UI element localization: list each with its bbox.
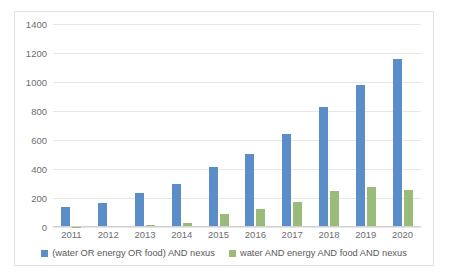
bar bbox=[330, 191, 339, 227]
bar-groups bbox=[53, 24, 421, 227]
x-axis-tick-label: 2015 bbox=[200, 229, 237, 240]
x-axis-tick-labels: 2011201220132014201520162017201820192020 bbox=[53, 229, 421, 240]
x-axis-tick-label: 2018 bbox=[311, 229, 348, 240]
bar-group bbox=[237, 24, 274, 227]
y-axis-tick-label: 400 bbox=[31, 164, 47, 175]
bar-group bbox=[53, 24, 90, 227]
legend-item[interactable]: water AND energy AND food AND nexus bbox=[229, 248, 407, 258]
bar-group bbox=[274, 24, 311, 227]
x-axis-tick-label: 2012 bbox=[90, 229, 127, 240]
x-axis-tick-label: 2016 bbox=[237, 229, 274, 240]
legend-item[interactable]: (water OR energy OR food) AND nexus bbox=[41, 248, 215, 258]
y-axis-tick-label: 1200 bbox=[26, 48, 47, 59]
x-axis-tick-label: 2011 bbox=[53, 229, 90, 240]
y-axis-tick-label: 1000 bbox=[26, 77, 47, 88]
bar-group bbox=[90, 24, 127, 227]
bar bbox=[61, 207, 70, 227]
bar bbox=[393, 59, 402, 227]
bar-group bbox=[347, 24, 384, 227]
bar-group bbox=[163, 24, 200, 227]
chart-container: 0200400600800100012001400 20112012201320… bbox=[14, 11, 434, 266]
bar bbox=[319, 107, 328, 227]
bar bbox=[256, 209, 265, 227]
bar bbox=[367, 187, 376, 227]
bar-group bbox=[311, 24, 348, 227]
bar bbox=[245, 154, 254, 227]
legend-label: water AND energy AND food AND nexus bbox=[240, 248, 407, 258]
y-axis-tick-label: 600 bbox=[31, 135, 47, 146]
y-axis-tick-label: 0 bbox=[42, 222, 47, 233]
chart-legend: (water OR energy OR food) AND nexuswater… bbox=[15, 248, 433, 258]
bar-group bbox=[200, 24, 237, 227]
legend-swatch-icon bbox=[229, 250, 236, 257]
bar bbox=[282, 134, 291, 227]
x-axis-tick-label: 2014 bbox=[163, 229, 200, 240]
x-axis-tick-label: 2013 bbox=[127, 229, 164, 240]
bar bbox=[356, 85, 365, 227]
y-axis-tick-label: 200 bbox=[31, 193, 47, 204]
legend-label: (water OR energy OR food) AND nexus bbox=[52, 248, 215, 258]
bar bbox=[172, 184, 181, 227]
bar bbox=[404, 190, 413, 227]
gridline bbox=[53, 227, 421, 228]
bar bbox=[98, 203, 107, 227]
bar bbox=[293, 202, 302, 227]
bar-group bbox=[127, 24, 164, 227]
bar-group bbox=[384, 24, 421, 227]
bar bbox=[135, 193, 144, 227]
bar bbox=[209, 167, 218, 227]
y-axis-tick-label: 800 bbox=[31, 106, 47, 117]
legend-swatch-icon bbox=[41, 250, 48, 257]
x-axis-tick-label: 2020 bbox=[384, 229, 421, 240]
x-axis-tick-label: 2019 bbox=[347, 229, 384, 240]
x-axis-line bbox=[53, 226, 421, 227]
plot-area: 0200400600800100012001400 bbox=[53, 24, 421, 227]
y-axis-tick-label: 1400 bbox=[26, 19, 47, 30]
x-axis-tick-label: 2017 bbox=[274, 229, 311, 240]
